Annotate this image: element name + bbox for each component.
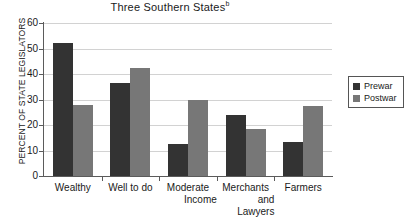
- bar-prewar-wealthy: [53, 43, 73, 176]
- x-axis-label-line: Lawyers: [217, 206, 275, 218]
- x-axis-category-tick: [159, 176, 160, 181]
- legend-label-prewar: Prewar: [364, 81, 393, 91]
- plot-area: [44, 23, 332, 176]
- chart-legend: PrewarPostwar: [348, 76, 404, 108]
- bar-postwar-moderate-income: [188, 100, 208, 177]
- legend-swatch-prewar: [353, 83, 360, 90]
- y-axis-tick-label: 0: [0, 170, 38, 181]
- legend-label-postwar: Postwar: [364, 93, 397, 103]
- y-axis-tick-label: 30: [0, 94, 38, 105]
- x-axis-category-tick: [217, 176, 218, 181]
- y-axis-tick: [39, 23, 44, 24]
- x-axis-label-line: Wealthy: [44, 182, 102, 194]
- chart-title-text: Three Southern States: [111, 1, 226, 13]
- gridline: [44, 49, 332, 50]
- x-axis-label-moderate-income: ModerateIncome: [159, 182, 217, 206]
- x-axis-label-line: Well to do: [102, 182, 160, 194]
- y-axis-tick: [39, 74, 44, 75]
- y-axis-tick: [39, 151, 44, 152]
- y-axis-tick: [39, 100, 44, 101]
- y-axis-tick: [39, 49, 44, 50]
- y-axis-tick-label: 60: [0, 17, 38, 28]
- x-axis-label-farmers: Farmers: [274, 182, 332, 194]
- y-axis-tick-label: 20: [0, 119, 38, 130]
- x-axis-label-well-to-do: Well to do: [102, 182, 160, 194]
- x-axis-label-line: Merchants: [217, 182, 275, 194]
- bar-prewar-merchants-and-lawyers: [226, 115, 246, 176]
- x-axis-label-line: Income: [159, 194, 217, 206]
- legend-item-prewar[interactable]: Prewar: [353, 80, 400, 92]
- x-axis-label-line: Farmers: [274, 182, 332, 194]
- bar-postwar-wealthy: [73, 105, 93, 176]
- bar-prewar-well-to-do: [110, 83, 130, 176]
- gridline: [44, 23, 332, 24]
- x-axis-category-tick: [102, 176, 103, 181]
- gridline: [44, 74, 332, 75]
- bar-postwar-merchants-and-lawyers: [246, 129, 266, 176]
- y-axis-tick-label: 10: [0, 145, 38, 156]
- y-axis-tick: [39, 125, 44, 126]
- chart-title: Three Southern Statesb: [0, 1, 340, 13]
- legend-item-postwar[interactable]: Postwar: [353, 92, 400, 104]
- chart-title-footnote-marker: b: [225, 0, 229, 7]
- x-axis-label-line: Moderate: [159, 182, 217, 194]
- x-axis-label-line: and: [217, 194, 275, 206]
- y-axis-tick-label: 50: [0, 43, 38, 54]
- x-axis-label-wealthy: Wealthy: [44, 182, 102, 194]
- x-axis-category-tick: [274, 176, 275, 181]
- y-axis-tick-label: 40: [0, 68, 38, 79]
- bar-postwar-farmers: [303, 106, 323, 176]
- bar-prewar-farmers: [283, 142, 303, 176]
- bar-prewar-moderate-income: [168, 144, 188, 176]
- chart-container: Three Southern Statesb PERCENT OF STATE …: [0, 0, 406, 219]
- x-axis-label-merchants-and-lawyers: MerchantsandLawyers: [217, 182, 275, 218]
- legend-swatch-postwar: [353, 95, 360, 102]
- y-axis-tick: [39, 176, 44, 177]
- bar-postwar-well-to-do: [130, 68, 150, 176]
- x-axis-line: [43, 176, 333, 177]
